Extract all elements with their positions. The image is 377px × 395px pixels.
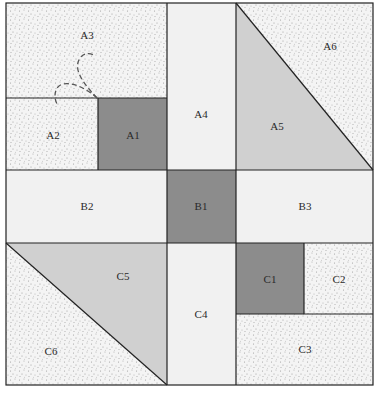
label-c6: C6 bbox=[45, 345, 58, 357]
label-a5: A5 bbox=[270, 120, 284, 132]
label-b1: B1 bbox=[195, 200, 208, 212]
label-c2: C2 bbox=[333, 273, 346, 285]
label-b2: B2 bbox=[81, 200, 94, 212]
piece-a3 bbox=[6, 3, 167, 98]
label-c1: C1 bbox=[264, 273, 277, 285]
label-a1: A1 bbox=[126, 129, 139, 141]
label-b3: B3 bbox=[299, 200, 312, 212]
label-c4: C4 bbox=[195, 308, 208, 320]
label-c3: C3 bbox=[299, 343, 312, 355]
label-a2: A2 bbox=[46, 129, 59, 141]
piece-a4 bbox=[167, 3, 236, 170]
label-a4: A4 bbox=[194, 108, 208, 120]
label-a3: A3 bbox=[80, 29, 94, 41]
quilt-block-diagram: A3 A2 A1 A4 A5 A6 B2 B1 B3 C5 C6 C4 C1 C… bbox=[0, 0, 377, 395]
label-a6: A6 bbox=[323, 40, 337, 52]
label-c5: C5 bbox=[117, 270, 130, 282]
